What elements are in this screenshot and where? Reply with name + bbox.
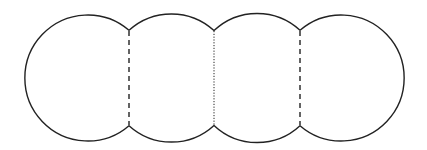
outer-outline bbox=[25, 13, 404, 142]
four-circle-chain-diagram bbox=[0, 0, 427, 150]
